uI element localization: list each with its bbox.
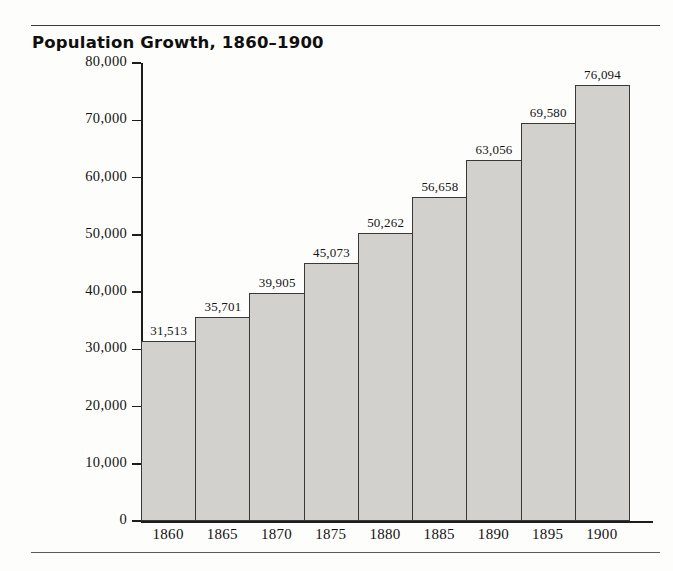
x-tick-label: 1865 <box>195 526 249 543</box>
y-tick-mark <box>132 520 141 522</box>
bar-value-label: 31,513 <box>150 323 187 339</box>
page-title: Population Growth, 1860–1900 <box>32 33 324 52</box>
bar: 39,905 <box>249 293 305 521</box>
y-tick-mark <box>132 406 141 408</box>
bar: 69,580 <box>521 123 577 521</box>
y-tick-label: 60,000 <box>85 168 127 185</box>
x-tick-label: 1900 <box>575 526 629 543</box>
y-tick-mark <box>132 291 141 293</box>
y-tick-mark <box>132 463 141 465</box>
bar: 31,513 <box>141 341 197 521</box>
x-tick-label: 1880 <box>358 526 412 543</box>
bar: 50,262 <box>358 233 414 521</box>
bar-value-label: 45,073 <box>313 245 350 261</box>
x-axis-line <box>141 521 653 523</box>
x-tick-label: 1895 <box>521 526 575 543</box>
x-tick-label: 1890 <box>466 526 520 543</box>
bar-value-label: 56,658 <box>421 179 458 195</box>
bar-value-label: 76,094 <box>584 67 621 83</box>
y-tick-label: 30,000 <box>85 339 127 356</box>
bar-value-label: 50,262 <box>367 215 404 231</box>
bar: 56,658 <box>412 197 468 521</box>
x-tick-label: 1875 <box>304 526 358 543</box>
y-tick-label: 50,000 <box>85 225 127 242</box>
bar-value-label: 35,701 <box>204 299 241 315</box>
bar: 63,056 <box>466 160 522 521</box>
bar-value-label: 69,580 <box>530 105 567 121</box>
y-tick-mark <box>132 349 141 351</box>
bar-value-label: 39,905 <box>259 275 296 291</box>
bar: 76,094 <box>575 85 631 521</box>
y-tick-mark <box>132 177 141 179</box>
bar-value-label: 63,056 <box>476 142 513 158</box>
y-tick-mark <box>132 120 141 122</box>
y-tick-label: 10,000 <box>85 454 127 471</box>
y-tick-label: 40,000 <box>85 282 127 299</box>
bar: 35,701 <box>195 317 251 521</box>
x-tick-label: 1885 <box>412 526 466 543</box>
chart-page: Population Growth, 1860–1900 Population … <box>0 0 673 571</box>
y-tick-label: 0 <box>119 511 127 528</box>
page-rule-top <box>31 25 660 26</box>
plot-area: 31,51335,70139,90545,07350,26256,65863,0… <box>141 63 629 521</box>
x-tick-label: 1860 <box>141 526 195 543</box>
y-tick-mark <box>132 234 141 236</box>
y-tick-mark <box>132 62 141 64</box>
x-tick-label: 1870 <box>249 526 303 543</box>
y-tick-label: 20,000 <box>85 397 127 414</box>
y-tick-label: 80,000 <box>85 53 127 70</box>
bar: 45,073 <box>304 263 360 521</box>
page-rule-bottom <box>31 552 660 553</box>
y-tick-label: 70,000 <box>85 110 127 127</box>
